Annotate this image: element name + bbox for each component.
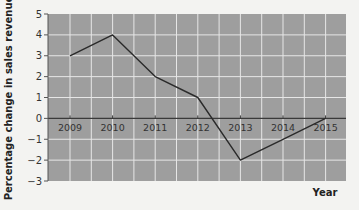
line-chart: 543210−1−2−3 200920102011201220132014201… xyxy=(0,0,359,210)
x-tick-label: 2013 xyxy=(228,122,252,133)
x-tick-label: 2011 xyxy=(143,122,167,133)
y-tick-label: 2 xyxy=(36,71,42,82)
y-tick-label: 5 xyxy=(36,9,42,20)
x-tick-label: 2010 xyxy=(101,122,125,133)
x-tick-label: 2009 xyxy=(58,122,82,133)
y-tick-label: 1 xyxy=(36,92,42,103)
y-axis-label: Percentage change in sales revenue xyxy=(3,0,14,200)
y-tick-label: −1 xyxy=(27,134,42,145)
x-tick-label: 2015 xyxy=(314,122,338,133)
x-tick-label: 2014 xyxy=(271,122,295,133)
x-axis-label: Year xyxy=(312,187,338,198)
y-tick-label: −3 xyxy=(27,176,42,187)
y-tick-label: 0 xyxy=(36,113,42,124)
y-tick-label: 3 xyxy=(36,50,42,61)
y-tick-label: 4 xyxy=(36,29,42,40)
x-tick-label: 2012 xyxy=(186,122,210,133)
y-tick-label: −2 xyxy=(27,155,42,166)
y-axis: 543210−1−2−3 xyxy=(27,9,48,187)
